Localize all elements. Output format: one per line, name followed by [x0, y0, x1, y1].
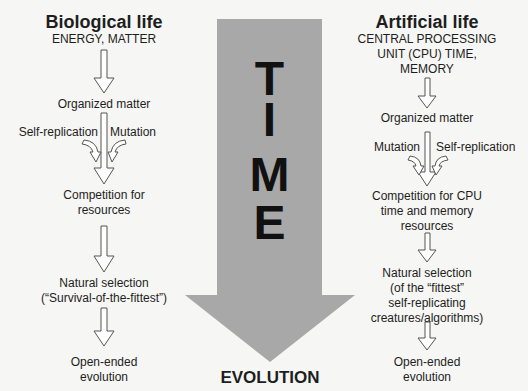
right-subtitle-1: CENTRAL PROCESSING	[327, 32, 527, 46]
left-subtitle: ENERGY, MATTER	[4, 32, 204, 46]
left-step-open-ended-2: evolution	[4, 370, 204, 384]
time-letter-m: M	[217, 151, 322, 199]
left-step-competition-2: resources	[4, 203, 204, 217]
right-curved-arrow-self-replication	[432, 156, 448, 175]
left-step-natural-selection-1: Natural selection	[4, 276, 204, 290]
left-step-competition-1: Competition for	[4, 188, 204, 202]
right-step-competition-1: Competition for CPU	[327, 189, 527, 203]
right-title: Artificial life	[327, 12, 527, 32]
left-label-self-replication: Self-replication	[8, 125, 98, 139]
right-arrow-1	[418, 78, 436, 108]
right-arrow-2	[418, 132, 436, 186]
right-step-competition-3: resources	[327, 219, 527, 233]
right-step-organized-matter: Organized matter	[327, 111, 527, 125]
left-step-organized-matter: Organized matter	[4, 97, 204, 111]
right-step-natural-selection-4: creatures/algorithms)	[327, 311, 527, 325]
right-step-natural-selection-1: Natural selection	[327, 266, 527, 280]
time-letter-e: E	[217, 199, 322, 247]
left-curved-arrow-self-replication	[82, 140, 101, 162]
left-label-mutation: Mutation	[110, 125, 170, 139]
right-subtitle-2: UNIT (CPU) TIME,	[327, 47, 527, 61]
left-arrow-1	[94, 50, 114, 93]
right-step-natural-selection-2: (of the “fittest”	[327, 281, 527, 295]
right-label-self-replication: Self-replication	[436, 140, 528, 154]
left-arrow-3	[94, 226, 114, 272]
right-label-mutation: Mutation	[350, 140, 420, 154]
left-step-open-ended-1: Open-ended	[4, 355, 204, 369]
left-step-natural-selection-2: (“Survival-of-the-fittest”)	[4, 291, 204, 305]
time-letter-i: I	[217, 96, 322, 144]
right-arrow-3	[418, 233, 436, 262]
right-subtitle-3: MEMORY	[327, 62, 527, 76]
left-title: Biological life	[4, 12, 204, 32]
left-arrow-4	[94, 308, 114, 346]
right-step-open-ended-2: evolution	[327, 370, 527, 384]
left-curved-arrow-mutation	[108, 140, 126, 162]
right-arrow-4	[418, 322, 436, 350]
right-step-natural-selection-3: self-replicating	[327, 296, 527, 310]
right-step-open-ended-1: Open-ended	[327, 355, 527, 369]
right-step-competition-2: time and memory	[327, 204, 527, 218]
